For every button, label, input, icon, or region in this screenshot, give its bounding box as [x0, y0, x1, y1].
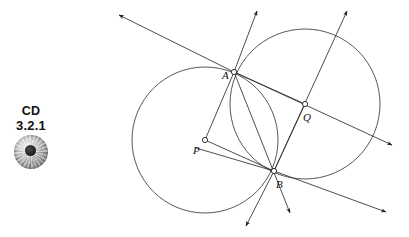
ray-B-lower-left — [246, 171, 274, 226]
ray-A-upper-left — [119, 15, 234, 72]
point-label-B: B — [276, 178, 283, 190]
point-P-marker — [202, 137, 207, 142]
ray-B-lower-right — [274, 171, 386, 212]
point-Q-marker — [302, 101, 307, 106]
ray-B-through-Q — [274, 11, 347, 171]
segment-PB — [205, 140, 274, 171]
ray-A-upper-right — [234, 11, 257, 72]
point-label-A: A — [221, 69, 229, 81]
point-label-P: P — [192, 144, 200, 156]
point-A-marker — [231, 69, 236, 74]
ray-B-upper-left — [196, 148, 274, 171]
figure-canvas: CD 3.2.1 — [0, 0, 409, 237]
point-B-marker — [271, 168, 276, 173]
ray-A-through-Q — [234, 72, 392, 145]
geometry-diagram: A B P Q — [0, 0, 409, 237]
point-label-Q: Q — [303, 111, 311, 123]
